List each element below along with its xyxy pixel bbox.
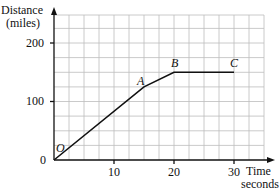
y-axis-arrow-icon xyxy=(51,7,57,15)
x-tick-20: 20 xyxy=(168,166,180,179)
y-axis-title-line2: (miles) xyxy=(6,17,40,30)
point-label-c: C xyxy=(230,57,238,70)
x-axis-arrow-icon xyxy=(267,157,275,163)
y-tick-0: 0 xyxy=(40,154,46,167)
x-tick-10: 10 xyxy=(108,166,120,179)
x-tick-30: 30 xyxy=(228,166,240,179)
point-label-o: O xyxy=(56,142,65,155)
y-tick-100: 100 xyxy=(26,95,44,108)
y-tick-200: 200 xyxy=(26,37,44,50)
point-label-b: B xyxy=(171,57,178,70)
grid xyxy=(54,15,264,160)
x-axis-title-line2: seconds xyxy=(241,178,279,191)
point-label-a: A xyxy=(137,75,144,88)
axes xyxy=(50,12,270,164)
